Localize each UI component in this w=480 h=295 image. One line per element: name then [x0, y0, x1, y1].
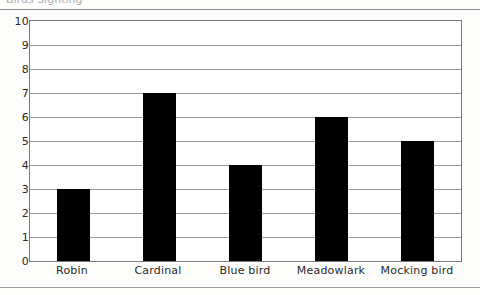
y-tick-label-7: 7 — [7, 87, 29, 100]
x-tick-label: Meadowlark — [297, 264, 365, 277]
y-tick-label-9: 9 — [7, 39, 29, 52]
x-axis: RobinCardinalBlue birdMeadowlarkMocking … — [29, 264, 462, 284]
x-tick-label: Cardinal — [134, 264, 181, 277]
y-tick-label-0: 0 — [7, 255, 29, 268]
y-tick-label-8: 8 — [7, 63, 29, 76]
bar — [57, 189, 90, 261]
y-tick-label-10: 10 — [7, 15, 29, 28]
y-tick-label-2: 2 — [7, 207, 29, 220]
y-tick-label-5: 5 — [7, 135, 29, 148]
y-tick-label-1: 1 — [7, 231, 29, 244]
chart-title-clipped: Birds Sighting — [6, 0, 186, 6]
y-tick-label-6: 6 — [7, 111, 29, 124]
y-tick-label-3: 3 — [7, 183, 29, 196]
bar — [229, 165, 262, 261]
y-tick-label-4: 4 — [7, 159, 29, 172]
bar — [315, 117, 348, 261]
x-tick-label: Blue bird — [220, 264, 271, 277]
bar — [143, 93, 176, 261]
header-divider — [0, 9, 480, 10]
footer-divider — [0, 287, 480, 288]
bar — [401, 141, 434, 261]
chart-title-text: Birds Sighting — [6, 0, 186, 5]
x-tick-label: Mocking bird — [381, 264, 454, 277]
bars-layer — [30, 21, 461, 261]
x-tick-label: Robin — [56, 264, 88, 277]
